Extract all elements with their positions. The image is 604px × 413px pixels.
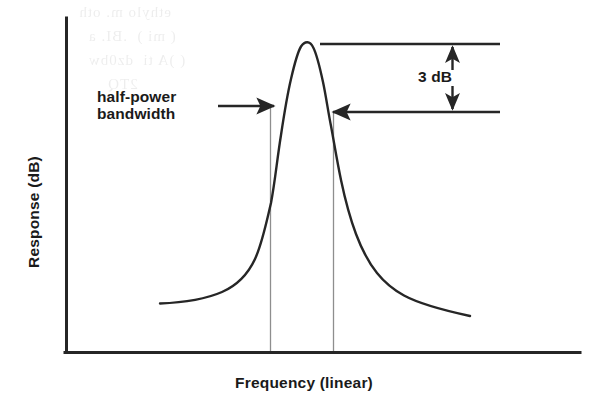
half-power-bandwidth-annotation: half-power bandwidth [97, 88, 176, 122]
db-reference-lines [320, 44, 500, 112]
figure-root: ethylo m. oth ( mi ) .BI. a ( )A ti dz0b… [0, 0, 604, 413]
half-power-bandwidth-annotation-line2: bandwidth [97, 105, 176, 122]
axis-lines [65, 18, 580, 353]
x-axis-label: Frequency (linear) [181, 374, 427, 392]
y-axis-label: Response (dB) [25, 147, 43, 277]
three-db-annotation: 3 dB [418, 68, 452, 85]
figure-canvas [0, 0, 604, 413]
half-power-bandwidth-annotation-line1: half-power [97, 88, 176, 105]
